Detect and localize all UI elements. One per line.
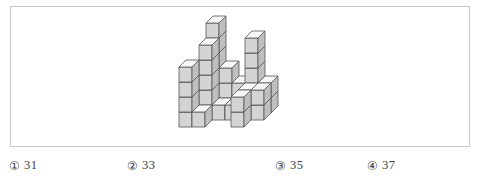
option-3-marker: ③ — [275, 160, 287, 172]
option-3-value: 35 — [290, 158, 303, 173]
option-1[interactable]: ①31 — [9, 158, 37, 173]
option-4[interactable]: ④37 — [367, 158, 395, 173]
option-4-value: 37 — [382, 158, 395, 173]
answer-options: ①31 ②33 ③35 ④37 — [0, 158, 483, 183]
stacked-cubes-isometric-figure — [11, 7, 471, 148]
cube-group — [179, 16, 278, 127]
option-4-marker: ④ — [367, 160, 379, 172]
option-1-value: 31 — [24, 158, 37, 173]
option-2-value: 33 — [142, 158, 155, 173]
option-2-marker: ② — [127, 160, 139, 172]
option-2[interactable]: ②33 — [127, 158, 155, 173]
figure-frame — [10, 6, 470, 147]
option-1-marker: ① — [9, 160, 21, 172]
option-3[interactable]: ③35 — [275, 158, 303, 173]
cube-stack-drawing — [11, 7, 471, 148]
